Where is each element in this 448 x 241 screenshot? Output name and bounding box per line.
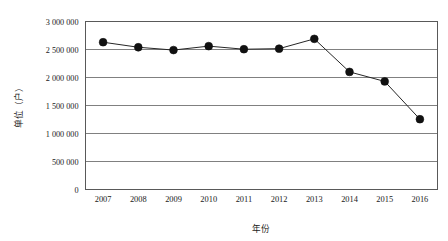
x-tick-label: 2010: [200, 195, 217, 204]
data-point-marker: [134, 43, 142, 51]
y-axis-title: 单位（户）: [13, 83, 24, 128]
x-tick-label: 2013: [306, 195, 323, 204]
x-tick-label: 2016: [412, 195, 429, 204]
data-point-marker: [99, 38, 107, 46]
data-point-marker: [381, 78, 389, 86]
y-tick-label: 1 000 000: [46, 130, 79, 139]
x-tick-label: 2015: [376, 195, 393, 204]
gridlines: [86, 22, 438, 162]
x-tick-label: 2012: [271, 195, 288, 204]
x-tick-label: 2008: [130, 195, 147, 204]
y-tick-label: 2 000 000: [46, 74, 79, 83]
chart-canvas: 0500 0001 000 0001 500 0002 000 0002 500…: [0, 0, 448, 241]
data-point-marker: [205, 42, 213, 50]
data-point-marker: [310, 35, 318, 43]
x-tick-label: 2009: [165, 195, 182, 204]
x-tick-label: 2011: [236, 195, 252, 204]
x-axis-title: 年份: [252, 223, 270, 234]
data-point-marker: [416, 115, 424, 123]
x-tick-label: 2007: [95, 195, 112, 204]
y-tick-label: 3 000 000: [46, 18, 79, 27]
data-point-marker: [346, 68, 354, 76]
line-chart: 0500 0001 000 0001 500 0002 000 0002 500…: [0, 0, 448, 241]
y-tick-label: 2 500 000: [46, 46, 79, 55]
data-point-marker: [170, 46, 178, 54]
series-line: [103, 39, 420, 119]
y-tick-label: 1 500 000: [46, 102, 79, 111]
x-axis-tick-labels: 2007200820092010201120122013201420152016: [95, 195, 429, 204]
data-series: [99, 35, 424, 123]
data-point-marker: [240, 45, 248, 53]
y-tick-label: 500 000: [52, 158, 79, 167]
y-axis-tick-labels: 0500 0001 000 0001 500 0002 000 0002 500…: [46, 18, 79, 195]
data-point-marker: [275, 45, 283, 53]
x-tick-label: 2014: [341, 195, 359, 204]
y-tick-label: 0: [74, 186, 78, 195]
